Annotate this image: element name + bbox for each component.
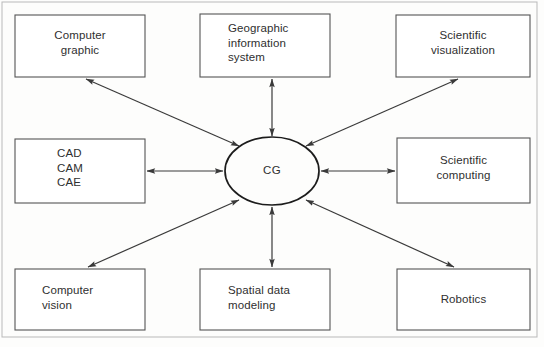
node-label-spatial-data-modeling: Spatial data modeling [228,283,290,312]
node-label-scientific-computing: Scientific computing [424,153,503,182]
connector-computer-vision [88,200,239,267]
node-label-computer-graphic: Computer graphic [50,28,110,57]
node-label-scientific-visualization: Scientific visualization [424,28,502,57]
node-label-computer-vision: Computer vision [42,283,93,312]
node-label-cad-cam-cae: CAD CAM CAE [57,146,83,190]
node-label-robotics: Robotics [424,292,503,307]
connector-robotics [306,200,454,267]
node-label-geographic-information-system: Geographic information system [228,21,288,65]
connector-computer-graphic [86,79,239,146]
center-node-label: CG [225,164,319,176]
relationship-diagram: Computer graphicGeographic information s… [0,0,544,347]
connector-scientific-visualization [306,79,458,146]
